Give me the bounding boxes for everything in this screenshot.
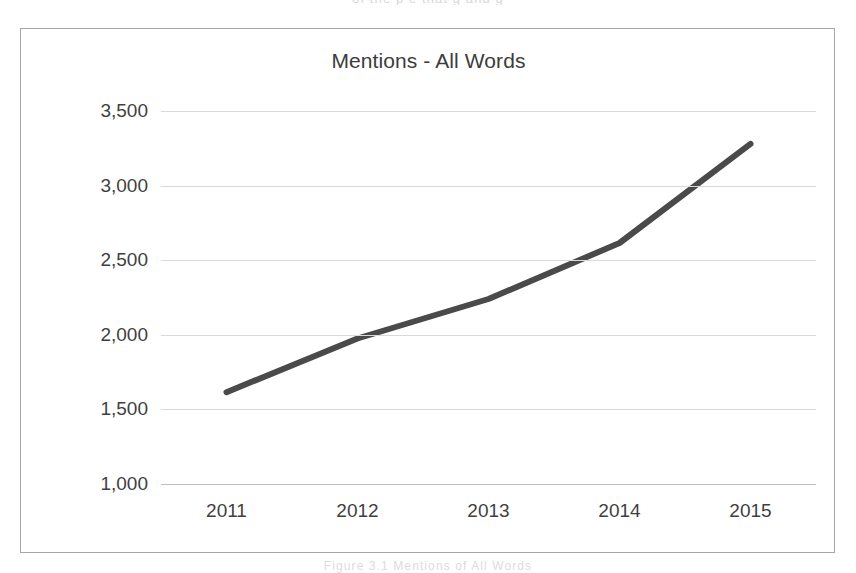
x-axis-tick-label: 2012 [336, 500, 378, 522]
gridline-3500 [161, 111, 816, 112]
gridline-1500 [161, 409, 816, 410]
chart-title: Mentions - All Words [21, 49, 836, 73]
series-line-mentions-all-words [227, 144, 751, 392]
chart-screenshot: of the p e that g and g Mentions - All W… [0, 0, 856, 573]
plot-area: 3,5003,0002,5002,0001,5001,0002011201220… [161, 111, 816, 484]
y-axis-tick-label: 1,500 [100, 398, 148, 420]
gridline-2500 [161, 260, 816, 261]
series-line-chart [161, 111, 816, 484]
x-axis-tick-label: 2011 [206, 500, 247, 522]
chart-frame: Mentions - All Words 3,5003,0002,5002,00… [20, 28, 835, 553]
x-axis-tick-label: 2015 [729, 500, 771, 522]
y-axis-tick-label: 3,000 [100, 175, 148, 197]
x-axis-tick-label: 2013 [467, 500, 509, 522]
y-axis-tick-label: 2,500 [100, 249, 148, 271]
y-axis-tick-label: 3,500 [100, 100, 148, 122]
gridline-3000 [161, 186, 816, 187]
scan-artifact-top-text: of the p e that g and g [0, 0, 856, 5]
y-axis-tick-label: 2,000 [100, 324, 148, 346]
gridline-2000 [161, 335, 816, 336]
scan-artifact-bottom-text: Figure 3.1 Mentions of All Words [0, 559, 856, 573]
gridline-1000 [161, 484, 816, 485]
x-axis-tick-label: 2014 [598, 500, 640, 522]
y-axis-tick-label: 1,000 [100, 473, 148, 495]
